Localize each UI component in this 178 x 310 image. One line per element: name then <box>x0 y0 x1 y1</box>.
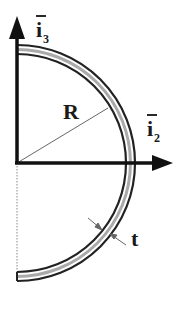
label-i3: i 3 <box>36 16 49 46</box>
arrow-up-icon <box>9 16 25 39</box>
svg-text:2: 2 <box>154 131 160 145</box>
label-radius: R <box>63 99 80 124</box>
axis-i3 <box>9 16 25 163</box>
half-ring-diagram: i 3 i 2 R t <box>0 0 178 310</box>
arrow-right-icon <box>152 155 173 171</box>
label-i2: i 2 <box>147 115 160 145</box>
svg-text:i: i <box>36 17 42 42</box>
svg-text:i: i <box>147 116 153 141</box>
axis-i2 <box>15 155 173 171</box>
svg-text:3: 3 <box>43 32 49 46</box>
label-thickness: t <box>131 226 139 251</box>
